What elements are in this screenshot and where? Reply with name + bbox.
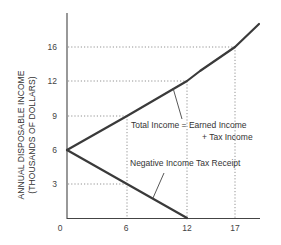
- y-tick-labels: 16 12 9 6 3: [48, 42, 58, 189]
- x-tick-6: 6: [124, 223, 129, 233]
- axes: [67, 13, 260, 219]
- y-tick-9: 9: [52, 111, 57, 121]
- annotations: Total Income = Earned Income + Tax Incom…: [130, 120, 253, 168]
- x-tick-12: 12: [182, 223, 192, 233]
- y-axis-label: ANNUAL DISPOSABLE INCOME (THOUSANDS OF D…: [16, 70, 37, 199]
- x-tick-0: 0: [58, 223, 63, 233]
- y-tick-6: 6: [52, 145, 57, 155]
- negative-tax-annotation: Negative Income Tax Receipt: [130, 158, 241, 168]
- y-tick-12: 12: [48, 76, 58, 86]
- y-axis-label-line2: (THOUSANDS OF DOLLARS): [27, 76, 37, 194]
- y-axis-label-line1: ANNUAL DISPOSABLE INCOME: [16, 70, 26, 199]
- y-tick-16: 16: [48, 42, 58, 52]
- x-tick-labels: 0 6 12 17: [58, 223, 240, 233]
- annotation-pointers: [153, 88, 182, 198]
- x-tick-17: 17: [230, 223, 240, 233]
- total-income-annotation-line2: + Tax Income: [202, 132, 253, 142]
- income-chart: ANNUAL DISPOSABLE INCOME (THOUSANDS OF D…: [0, 0, 281, 245]
- y-tick-3: 3: [52, 179, 57, 189]
- total-income-annotation-line1: Total Income = Earned Income: [131, 120, 247, 130]
- total-income-pointer: [173, 88, 182, 119]
- negative-tax-pointer: [153, 173, 164, 198]
